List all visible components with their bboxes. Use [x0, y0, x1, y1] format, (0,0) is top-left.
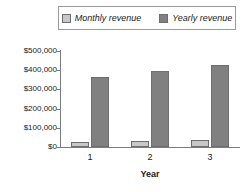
bar-monthly-revenue	[131, 141, 149, 147]
legend-item-monthly-revenue: Monthly revenue	[62, 14, 142, 23]
legend-swatch-monthly-revenue	[62, 14, 71, 23]
bar-group	[71, 51, 109, 147]
bar-yearly-revenue	[151, 71, 169, 147]
x-axis-tick-label: 1	[70, 153, 110, 162]
chart-legend: Monthly revenue Yearly revenue	[58, 6, 236, 30]
bar-monthly-revenue	[71, 142, 89, 147]
legend-label-yearly-revenue: Yearly revenue	[172, 14, 232, 23]
x-axis-line	[60, 147, 240, 148]
legend-label-monthly-revenue: Monthly revenue	[75, 14, 142, 23]
bar-yearly-revenue	[211, 65, 229, 147]
bar-yearly-revenue	[91, 77, 109, 147]
bar-group	[131, 51, 169, 147]
x-axis-title: Year	[60, 170, 240, 179]
y-axis-tick-labels: $500,000$400,000$300,000$200,000$100,000…	[0, 0, 57, 192]
legend-swatch-yearly-revenue	[159, 14, 168, 23]
y-axis-tick-label: $300,000	[24, 85, 57, 93]
x-axis-tick-label: 3	[190, 153, 230, 162]
y-axis-tick-label: $200,000	[24, 105, 57, 113]
y-axis-tick-label: $400,000	[24, 66, 57, 74]
plot-area	[60, 51, 240, 147]
bar-monthly-revenue	[191, 140, 209, 147]
x-axis-tick-label: 2	[130, 153, 170, 162]
y-axis-tick-label: $500,000	[24, 47, 57, 55]
legend-item-yearly-revenue: Yearly revenue	[159, 14, 232, 23]
bar-group	[191, 51, 229, 147]
revenue-bar-chart: Monthly revenue Yearly revenue $500,000$…	[0, 0, 250, 192]
y-axis-tick-label: $100,000	[24, 124, 57, 132]
